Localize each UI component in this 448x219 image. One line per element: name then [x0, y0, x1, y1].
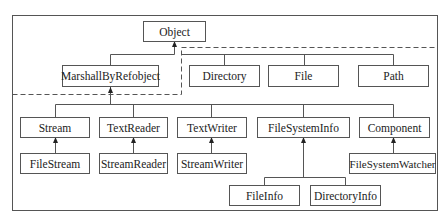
node-component: Component	[359, 117, 430, 138]
node-filesystemwatcher: FileSystemWatcher	[349, 153, 436, 174]
node-path: Path	[358, 65, 429, 87]
node-filestream: FileStream	[20, 153, 90, 174]
node-stream: Stream	[20, 117, 90, 138]
node-directoryinfo: DirectoryInfo	[310, 185, 381, 206]
node-textreader: TextReader	[99, 117, 168, 138]
node-textwriter: TextWriter	[177, 117, 247, 138]
node-directory: Directory	[189, 65, 260, 87]
outer-frame	[13, 16, 438, 211]
node-file: File	[268, 65, 339, 87]
arrow-icon	[108, 87, 113, 93]
node-streamreader: StreamReader	[99, 153, 168, 174]
node-fileinfo: FileInfo	[229, 185, 300, 206]
node-object: Object	[143, 21, 206, 42]
node-filesysteminfo: FileSystemInfo	[257, 117, 350, 138]
node-streamwriter: StreamWriter	[177, 153, 247, 174]
node-marshallbyrefobject: MarshallByRefobject	[62, 65, 159, 87]
